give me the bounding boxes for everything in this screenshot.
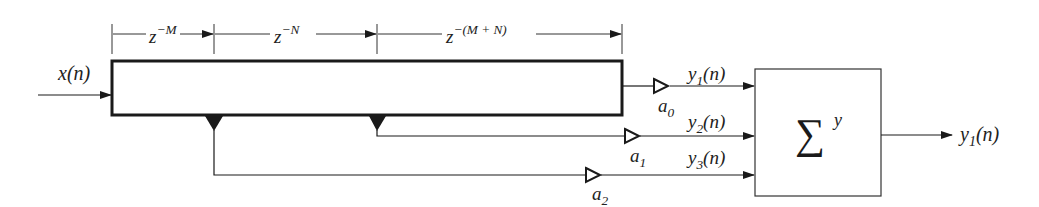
- delay-m-exponent: −M: [156, 22, 176, 37]
- gain-label-a1: a1: [630, 146, 646, 169]
- gain-a1-triangle: [625, 129, 639, 143]
- gain-a0-base: a: [658, 95, 668, 116]
- signal-y1-suffix: (n): [703, 63, 725, 84]
- output-base: y: [960, 123, 969, 145]
- signal-y2-suffix: (n): [703, 111, 725, 132]
- gain-label-a2: a2: [592, 184, 608, 207]
- signal-y3-suffix: (n): [703, 147, 725, 168]
- delay-n-exponent: −N: [281, 22, 299, 37]
- branch-a2: [214, 130, 754, 182]
- delay-mn-exponent: −(M + N): [453, 22, 506, 37]
- delay-label-m: z−M: [149, 25, 176, 46]
- signal-label-y3: y3(n): [688, 148, 725, 171]
- summer-label: y: [834, 111, 842, 129]
- tap-marker-2: [369, 116, 386, 131]
- delay-dimension-line: [112, 24, 622, 54]
- gain-a1-base: a: [630, 145, 640, 166]
- delay-label-n: z−N: [274, 25, 299, 46]
- gain-a1-sub: 1: [640, 155, 647, 170]
- signal-label-y1: y1(n): [688, 64, 725, 87]
- gain-label-a0: a0: [658, 96, 674, 119]
- gain-a0-sub: 0: [668, 105, 675, 120]
- summation-symbol: ∑: [795, 113, 825, 155]
- output-suffix: (n): [976, 123, 999, 145]
- input-label: x(n): [58, 63, 90, 83]
- delay-line-box: [112, 61, 622, 115]
- gain-a2-triangle: [586, 168, 600, 182]
- gain-a2-base: a: [592, 183, 602, 204]
- delay-label-mn: z−(M + N): [446, 25, 507, 46]
- output-sub: 1: [969, 134, 976, 149]
- gain-a0-triangle: [654, 79, 668, 93]
- gain-a2-sub: 2: [602, 193, 609, 207]
- output-label: y1(n): [960, 124, 999, 149]
- tap-marker-1: [205, 116, 223, 131]
- block-diagram: z−M z−N z−(M + N) x(n) y1(n) y2(n) y3(n)…: [0, 0, 1039, 207]
- signal-label-y2: y2(n): [688, 112, 725, 135]
